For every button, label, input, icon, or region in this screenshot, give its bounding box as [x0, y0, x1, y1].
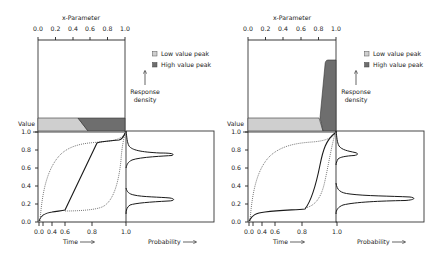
x-parameter-ticks: 0.0 0.2 0.4 0.6 0.8 1.0: [243, 25, 341, 32]
solid-value-curve: [249, 133, 335, 221]
legend-high-label: High value peak: [161, 61, 212, 69]
time-tick-labels: 0.0 0.4 0.6 0.8 1.0: [34, 228, 131, 235]
time-ticks: [249, 222, 337, 226]
legend-high-label: High value peak: [373, 61, 424, 69]
low-value-density-peak: [126, 188, 174, 214]
time-tick-labels: 0.0 0.4 0.6 0.8 1.0: [244, 228, 342, 235]
tick-label: 1.0: [231, 128, 241, 135]
tick-label: 1.0: [331, 25, 341, 32]
tick-label: 0.2: [261, 25, 271, 32]
x-parameter-title: x-Parameter: [62, 14, 101, 21]
density-label: density: [134, 96, 157, 104]
tick-label: 1.0: [21, 128, 31, 135]
high-value-density-peak: [336, 131, 358, 165]
tick-label: 0.8: [21, 146, 31, 153]
x-parameter-axis: [248, 37, 336, 40]
tick-label: 0.6: [85, 25, 95, 32]
y-tick-labels: 1.0 0.8 0.6 0.4 0.2 0.0: [21, 128, 31, 225]
time-label: Time: [62, 238, 78, 245]
tick-label: 0.2: [21, 200, 31, 207]
lower-dotted-curve: [305, 134, 335, 208]
solid-value-curve: [39, 133, 125, 221]
tick-label: 0.0: [231, 218, 241, 225]
tick-label: 0.8: [103, 25, 113, 32]
value-label: Value: [18, 120, 35, 127]
tick-label: 0.2: [231, 200, 241, 207]
response-label: Response: [341, 88, 371, 96]
upper-dotted-curve: [250, 134, 335, 221]
tick-label: 0.0: [33, 25, 43, 32]
legend-low-label: Low value peak: [373, 50, 422, 58]
tick-label: 0.0: [34, 228, 44, 235]
tick-label: 0.6: [60, 228, 70, 235]
tick-label: 1.0: [121, 228, 131, 235]
low-value-density-peak: [336, 183, 414, 214]
lower-dotted-curve: [65, 134, 125, 211]
x-parameter-title: x-Parameter: [273, 14, 312, 21]
legend-low-swatch: [153, 52, 158, 57]
time-ticks: [39, 222, 126, 226]
main-plot-axes: [248, 132, 337, 222]
density-label: density: [345, 96, 368, 104]
tick-label: 0.8: [314, 25, 324, 32]
tick-label: 0.4: [68, 25, 78, 32]
time-label: Time: [272, 238, 288, 245]
diagram-canvas: x-Parameter 0.0 0.2 0.4 0.6 0.8 1.0 Valu…: [0, 0, 441, 259]
legend-high-swatch: [153, 63, 158, 68]
probability-label: Probability: [357, 238, 390, 246]
tick-label: 0.6: [231, 164, 241, 171]
x-parameter-axis: [38, 37, 125, 40]
response-label: Response: [130, 88, 160, 96]
figure-left: x-Parameter 0.0 0.2 0.4 0.6 0.8 1.0 Valu…: [18, 14, 214, 246]
tick-label: 1.0: [332, 228, 342, 235]
low-value-band: [248, 118, 323, 131]
density-panel: [126, 131, 214, 222]
y-tick-labels: 1.0 0.8 0.6 0.4 0.2 0.0: [231, 128, 241, 225]
upper-dotted-curve: [40, 134, 125, 221]
tick-label: 0.2: [51, 25, 61, 32]
tick-label: 0.8: [87, 228, 97, 235]
tick-label: 0.0: [21, 218, 31, 225]
tick-label: 0.6: [270, 228, 280, 235]
high-value-density-peak: [126, 131, 173, 168]
value-label: Value: [227, 120, 244, 127]
tick-label: 0.0: [244, 228, 254, 235]
tick-label: 0.8: [297, 228, 307, 235]
tick-label: 0.4: [257, 228, 267, 235]
probability-label: Probability: [148, 238, 181, 246]
legend-low-swatch: [365, 52, 370, 57]
tick-label: 0.4: [231, 182, 241, 189]
figure-right: x-Parameter 0.0 0.2 0.4 0.6 0.8 1.0 Valu…: [227, 14, 424, 246]
density-panel: [336, 131, 424, 222]
high-value-peak-area: [320, 60, 336, 131]
tick-label: 0.4: [47, 228, 57, 235]
tick-label: 0.0: [243, 25, 253, 32]
tick-label: 0.8: [231, 146, 241, 153]
x-parameter-ticks: 0.0 0.2 0.4 0.6 0.8 1.0: [33, 25, 130, 32]
tick-label: 0.4: [278, 25, 288, 32]
main-plot-axes: [38, 132, 126, 222]
tick-label: 0.4: [21, 182, 31, 189]
tick-label: 1.0: [120, 25, 130, 32]
tick-label: 0.6: [296, 25, 306, 32]
legend-high-swatch: [365, 63, 370, 68]
legend-low-label: Low value peak: [161, 50, 210, 58]
tick-label: 0.6: [21, 164, 31, 171]
